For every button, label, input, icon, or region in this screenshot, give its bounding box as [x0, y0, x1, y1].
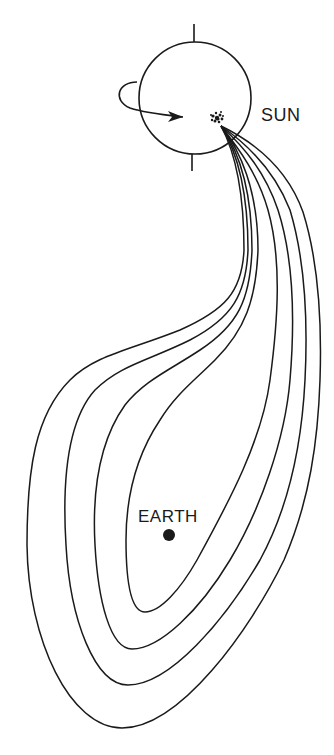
rotation-arrow-icon: [119, 82, 183, 117]
field-loops: [27, 126, 320, 728]
sun-disk: [139, 42, 251, 154]
loop-1-inner: [126, 126, 277, 612]
active-region-icon: [210, 111, 224, 123]
sun-label: SUN: [261, 106, 301, 124]
earth-label: EARTH: [138, 508, 198, 525]
loop-2: [94, 126, 292, 649]
earth-dot-icon: [163, 529, 175, 541]
loop-4-outer: [27, 126, 320, 728]
arrowhead-icon: [168, 111, 183, 122]
loop-3: [65, 126, 306, 685]
